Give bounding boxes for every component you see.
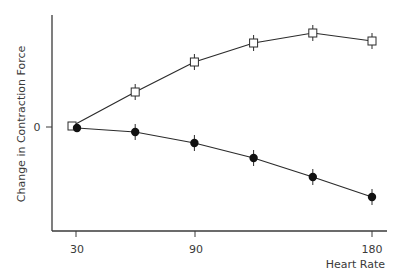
line-chart: 0 30 90 180 Heart Rate Change in Contrac… [0, 0, 402, 280]
filled-circle-marker-icon [131, 128, 139, 136]
y-axis-label: Change in Contraction Force [15, 46, 28, 203]
x-axis-label: Heart Rate [326, 258, 386, 271]
data-point-filled-circle [249, 150, 257, 166]
open-square-marker-icon [190, 58, 198, 66]
data-point-open-square [368, 33, 376, 49]
data-point-filled-circle [73, 124, 81, 132]
x-tick-label-90: 90 [189, 243, 203, 256]
data-point-open-square [250, 35, 258, 51]
open-square-marker-icon [250, 39, 258, 47]
x-tick-label-30: 30 [70, 243, 84, 256]
data-point-filled-circle [309, 169, 317, 185]
series-line-open-square [72, 33, 372, 126]
open-square-marker-icon [368, 37, 376, 45]
series-line-filled-circle [77, 128, 372, 197]
data-point-filled-circle [368, 189, 376, 205]
open-square-marker-icon [131, 88, 139, 96]
data-point-open-square [190, 54, 198, 70]
data-point-filled-circle [190, 135, 198, 151]
filled-circle-marker-icon [249, 154, 257, 162]
data-point-open-square [309, 25, 317, 41]
filled-circle-marker-icon [368, 193, 376, 201]
y-tick-label-0: 0 [34, 121, 41, 134]
filled-circle-marker-icon [190, 139, 198, 147]
data-point-open-square [131, 84, 139, 100]
series-layer [68, 25, 376, 205]
filled-circle-marker-icon [309, 173, 317, 181]
open-square-marker-icon [309, 29, 317, 37]
filled-circle-marker-icon [73, 124, 81, 132]
data-point-filled-circle [131, 124, 139, 140]
x-tick-label-180: 180 [362, 243, 383, 256]
